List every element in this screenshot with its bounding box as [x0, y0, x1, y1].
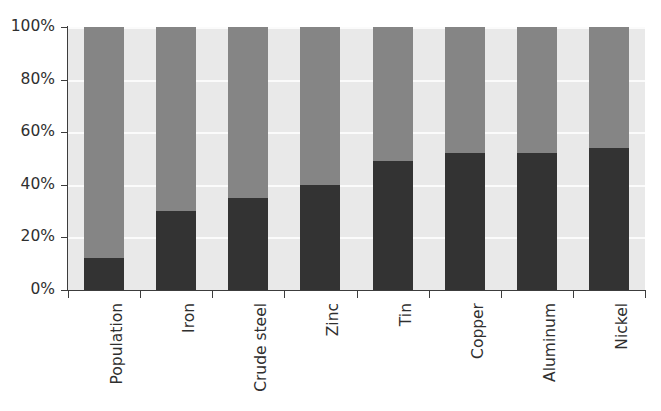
- bar-group[interactable]: [445, 27, 485, 290]
- bar-segment-upper[interactable]: [445, 27, 485, 153]
- x-axis-tick-mark: [429, 291, 430, 298]
- bar-segment-lower[interactable]: [589, 148, 629, 290]
- y-axis-tick-mark: [61, 80, 68, 81]
- bar-segment-lower[interactable]: [228, 198, 268, 290]
- bar-segment-lower[interactable]: [84, 258, 124, 290]
- bar-segment-upper[interactable]: [589, 27, 629, 148]
- y-axis-tick-label: 0%: [0, 282, 55, 298]
- y-axis-tick-mark: [61, 290, 68, 291]
- bar-group[interactable]: [373, 27, 413, 290]
- y-axis-tick-mark: [61, 185, 68, 186]
- x-axis-tick-mark: [357, 291, 358, 298]
- x-axis-tick-mark: [645, 291, 646, 298]
- bar-segment-upper[interactable]: [228, 27, 268, 198]
- x-axis-tick-label: Zinc: [326, 303, 342, 336]
- y-axis-tick-label: 40%: [0, 177, 55, 193]
- x-axis-tick-mark: [68, 291, 69, 298]
- y-axis-tick-label: 80%: [0, 72, 55, 88]
- bar-group[interactable]: [228, 27, 268, 290]
- bar-segment-lower[interactable]: [373, 161, 413, 290]
- y-axis-tick-mark: [61, 237, 68, 238]
- x-axis-tick-label: Tin: [399, 303, 415, 326]
- bar-segment-lower[interactable]: [156, 211, 196, 290]
- x-axis-tick-mark: [140, 291, 141, 298]
- bar-group[interactable]: [517, 27, 557, 290]
- x-axis-tick-label: Population: [110, 303, 126, 384]
- bar-segment-upper[interactable]: [156, 27, 196, 211]
- plot-area: [68, 27, 645, 290]
- bar-group[interactable]: [300, 27, 340, 290]
- stacked-bar-chart: 0%20%40%60%80%100% PopulationIronCrude s…: [0, 0, 661, 411]
- bar-segment-lower[interactable]: [445, 153, 485, 290]
- bar-segment-upper[interactable]: [373, 27, 413, 161]
- x-axis-tick-label: Crude steel: [254, 303, 270, 392]
- x-axis-tick-label: Iron: [182, 303, 198, 333]
- y-axis-tick-label: 60%: [0, 124, 55, 140]
- bars-layer: [68, 27, 645, 290]
- x-axis-tick-label: Aluminum: [543, 303, 559, 382]
- x-axis-tick-label: Nickel: [615, 303, 631, 350]
- bar-group[interactable]: [589, 27, 629, 290]
- y-axis-tick-label: 100%: [0, 19, 55, 35]
- y-axis-line: [67, 26, 68, 291]
- x-axis-tick-mark: [284, 291, 285, 298]
- x-axis-tick-mark: [501, 291, 502, 298]
- bar-segment-upper[interactable]: [300, 27, 340, 185]
- bar-segment-lower[interactable]: [300, 185, 340, 290]
- x-axis-tick-mark: [573, 291, 574, 298]
- y-axis-tick-mark: [61, 27, 68, 28]
- bar-segment-lower[interactable]: [517, 153, 557, 290]
- x-axis-tick-label: Copper: [471, 303, 487, 359]
- y-axis-tick-label: 20%: [0, 229, 55, 245]
- bar-segment-upper[interactable]: [517, 27, 557, 153]
- x-axis-tick-mark: [212, 291, 213, 298]
- bar-segment-upper[interactable]: [84, 27, 124, 258]
- bar-group[interactable]: [84, 27, 124, 290]
- y-axis-tick-mark: [61, 132, 68, 133]
- bar-group[interactable]: [156, 27, 196, 290]
